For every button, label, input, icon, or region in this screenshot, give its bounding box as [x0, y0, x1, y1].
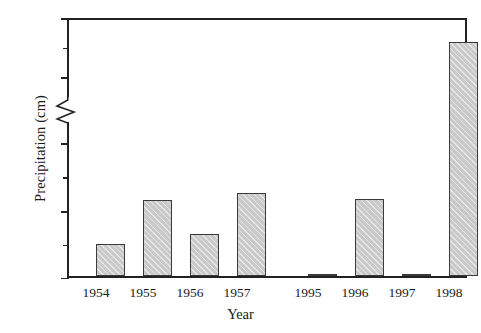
bar-1956 [190, 234, 219, 277]
x-axis-title: Year [0, 306, 481, 323]
bar-1957 [237, 193, 266, 277]
y-axis-line-lower [67, 122, 69, 278]
x-tick-label-1998: 1998 [414, 286, 481, 300]
bar-1996 [355, 199, 384, 277]
y-tick-15 [63, 177, 69, 179]
plot-area: 70 60 20 10 0 [67, 18, 467, 278]
bar-1955 [143, 200, 172, 277]
y-tick-5 [63, 245, 69, 247]
y-tick-20 [61, 143, 69, 145]
x-axis-line [67, 276, 467, 278]
frame-top-border [67, 18, 467, 20]
bar-1997 [402, 274, 431, 276]
y-tick-65 [63, 48, 69, 50]
y-axis-title: Precipitation (cm) [32, 39, 49, 259]
bar-1998 [449, 42, 478, 277]
bar-1995 [308, 274, 337, 276]
y-tick-70 [61, 18, 69, 20]
x-tick-label-1957: 1957 [202, 286, 272, 300]
y-tick-60 [61, 77, 69, 79]
y-axis-line-upper [67, 18, 69, 97]
bar-1954 [96, 244, 125, 277]
precipitation-bar-chart: Precipitation (cm) Year 70 60 20 10 0 1 [0, 0, 481, 333]
y-tick-10 [61, 211, 69, 213]
y-tick-0 [61, 278, 69, 280]
